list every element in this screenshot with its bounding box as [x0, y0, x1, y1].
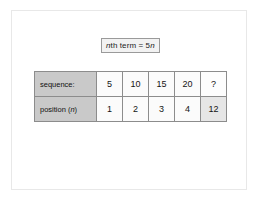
table-row: sequence: 5 10 15 20: [35, 72, 201, 97]
sequence-value-1: 5: [97, 72, 123, 97]
sequence-value-2: 10: [123, 72, 149, 97]
table-row: ?: [201, 72, 227, 97]
table-row: 12: [201, 97, 227, 122]
table-row: position (n) 1 2 3 4: [35, 97, 201, 122]
row-label-position: position (n): [35, 97, 97, 122]
unknown-position-value: 12: [201, 97, 227, 122]
unknown-sequence-value: ?: [201, 72, 227, 97]
position-value-3: 3: [149, 97, 175, 122]
sequence-position-table: sequence: 5 10 15 20 position (n) 1 2 3 …: [34, 71, 201, 122]
sequence-value-4: 20: [175, 72, 201, 97]
unknown-term-table: ? 12: [200, 71, 227, 122]
row-label-sequence: sequence:: [35, 72, 97, 97]
position-label-suffix: ): [75, 105, 78, 114]
sequence-value-3: 15: [149, 72, 175, 97]
position-label-prefix: position (: [40, 105, 70, 114]
position-value-2: 2: [123, 97, 149, 122]
formula-n-suffix-italic: n: [150, 41, 155, 50]
nth-term-formula-box: nth term = 5n: [101, 38, 160, 53]
lesson-panel: nth term = 5n sequence: 5 10 15 20 posit…: [11, 10, 247, 190]
position-value-1: 1: [97, 97, 123, 122]
position-value-4: 4: [175, 97, 201, 122]
nth-term-formula-text: nth term = 5n: [106, 42, 155, 50]
formula-body: th term = 5: [111, 41, 151, 50]
